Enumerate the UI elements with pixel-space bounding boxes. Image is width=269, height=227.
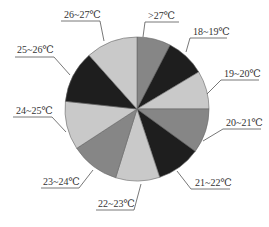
slice-label: 22~23℃ xyxy=(98,198,135,209)
slice-label: 21~22℃ xyxy=(195,177,232,188)
leader-line xyxy=(203,129,261,141)
leader-line xyxy=(186,38,227,52)
slice-label: 23~24℃ xyxy=(43,176,80,187)
slice-label: 18~19℃ xyxy=(193,26,230,37)
slice-label: 26~27℃ xyxy=(64,9,101,20)
pie-chart: >27℃18~19℃19~20℃20~21℃21~22℃22~23℃23~24℃… xyxy=(0,0,269,227)
slice-label: >27℃ xyxy=(148,10,175,21)
leader-line xyxy=(143,22,179,37)
leader-line xyxy=(15,57,70,75)
pie-slices xyxy=(65,37,209,181)
slice-label: 20~21℃ xyxy=(226,117,263,128)
leader-line xyxy=(61,21,104,41)
slice-label: 24~25℃ xyxy=(16,105,53,116)
leader-line xyxy=(13,117,66,132)
leader-line xyxy=(207,80,259,94)
slice-label: 19~20℃ xyxy=(224,68,261,79)
slice-label: 25~26℃ xyxy=(17,44,54,55)
